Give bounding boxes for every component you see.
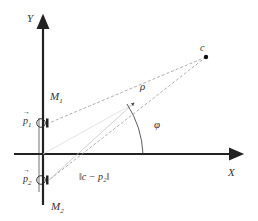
guide-line <box>43 104 133 154</box>
p1-vector-label: →p1 <box>23 116 32 129</box>
p2-vector-label: →p2 <box>23 174 32 187</box>
point-c <box>204 55 208 59</box>
phi-label: φ <box>154 119 160 130</box>
rho-label: ρ <box>140 81 145 92</box>
rho-arrow <box>49 103 134 180</box>
ray-c-to-m1 <box>49 57 206 123</box>
angle-arc <box>127 104 143 154</box>
mic-2-label: M2 <box>51 201 64 215</box>
mic-1-label: M1 <box>50 91 63 105</box>
distance-label: ‖c − p₂‖ <box>79 172 109 182</box>
ray-c-to-m2 <box>49 57 206 180</box>
point-c-label: c <box>200 43 204 53</box>
x-axis-label: X <box>228 167 235 178</box>
geometry-diagram <box>0 0 258 221</box>
y-axis-label: Y <box>27 13 33 24</box>
